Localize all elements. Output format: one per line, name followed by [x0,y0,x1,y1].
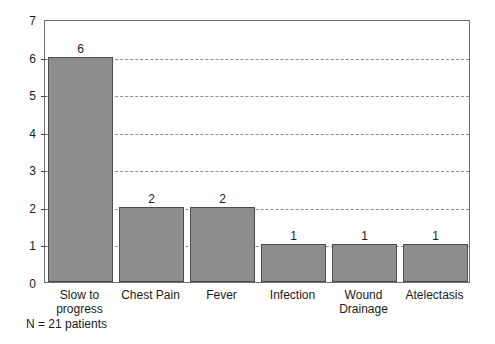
y-tick-mark-4 [41,134,46,135]
bar[interactable]: 2 [119,207,184,282]
y-axis-tick-label: 3 [29,165,36,177]
y-tick-mark-6 [41,59,46,60]
y-axis-tick-label: 5 [29,90,36,102]
bar[interactable]: 6 [48,57,113,282]
chart-caption: N = 21 patients [26,318,107,330]
y-axis-tick-label: 1 [29,240,36,252]
x-axis-category-label: Atelectasis [399,288,470,302]
bar[interactable]: 1 [261,244,326,282]
x-axis-category-label: Wound Drainage [328,288,399,316]
bar-value-label: 2 [219,193,226,205]
x-axis-category-label: Fever [186,288,257,302]
bar-value-label: 1 [361,230,368,242]
bar-value-label: 6 [77,43,84,55]
y-tick-mark-5 [41,96,46,97]
bar-value-label: 2 [148,193,155,205]
x-axis-category-label: Slow to progress [44,288,115,316]
bar-chart-figure: 01234567622111 N = 21 patients Slow to p… [0,0,495,344]
y-tick-mark-2 [41,209,46,210]
bar-value-label: 1 [432,230,439,242]
y-axis-tick-label: 0 [29,278,36,290]
bar-value-label: 1 [290,230,297,242]
y-tick-mark-1 [41,246,46,247]
y-axis-tick-label: 6 [29,53,36,65]
plot-area: 01234567622111 [44,20,470,283]
y-axis-tick-label: 7 [29,15,36,27]
x-axis-category-label: Chest Pain [115,288,186,302]
bar[interactable]: 1 [403,244,468,282]
y-axis-tick-label: 4 [29,128,36,140]
bar[interactable]: 2 [190,207,255,282]
y-tick-mark-3 [41,171,46,172]
y-axis-tick-label: 2 [29,203,36,215]
x-axis-category-label: Infection [257,288,328,302]
bar[interactable]: 1 [332,244,397,282]
